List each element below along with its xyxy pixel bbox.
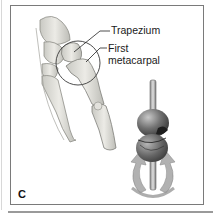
saddle-lower-ball: [136, 134, 168, 162]
figure-illustration: [0, 0, 213, 217]
first-metacarpal-bone: [66, 59, 104, 106]
proximal-phalanx: [92, 104, 116, 150]
carpal-bones: [40, 16, 70, 44]
panel-letter: C: [18, 188, 26, 200]
first-metacarpal-label-line2: metacarpal: [108, 55, 160, 66]
hand-bones: [36, 16, 116, 150]
second-metacarpal: [42, 76, 76, 143]
first-metacarpal-label-line1: First: [108, 43, 128, 54]
trapezium-label: Trapezium: [111, 25, 160, 36]
first-metacarpal-leader-line: [86, 48, 107, 62]
saddle-joint-model: [131, 80, 175, 197]
